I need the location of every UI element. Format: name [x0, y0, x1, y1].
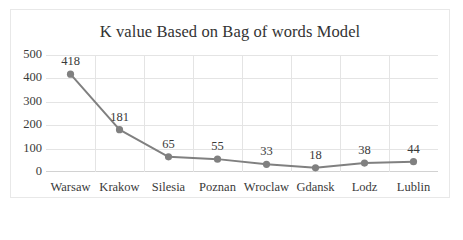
x-axis-tick-label: Poznan — [199, 180, 236, 195]
data-point-label: 181 — [110, 110, 129, 125]
y-axis-tick-label: 100 — [8, 142, 42, 155]
x-axis-tick-label: Lublin — [397, 180, 430, 195]
data-point-label: 33 — [260, 144, 273, 159]
data-point-label: 55 — [211, 139, 224, 154]
y-axis-tick-label: 200 — [8, 118, 42, 131]
data-point-label: 65 — [162, 137, 175, 152]
data-point-label: 18 — [309, 148, 322, 163]
x-axis: WarsawKrakowSilesiaPoznanWroclawGdanskLo… — [0, 180, 463, 200]
x-axis-tick-label: Warsaw — [51, 180, 91, 195]
data-point-marker — [67, 71, 74, 78]
data-point-marker — [410, 158, 417, 165]
chart-title: K value Based on Bag of words Model — [11, 22, 449, 42]
x-axis-tick-label: Gdansk — [296, 180, 334, 195]
series-line-k-value — [46, 55, 438, 172]
y-axis-tick-label: 300 — [8, 95, 42, 108]
data-point-label: 38 — [358, 143, 371, 158]
plot-area: 418181655533183844 — [46, 55, 438, 172]
data-point-marker — [312, 164, 319, 171]
x-axis-tick-label: Wroclaw — [244, 180, 289, 195]
y-axis-tick-label: 0 — [8, 165, 42, 178]
data-point-label: 418 — [61, 54, 80, 69]
data-point-marker — [263, 161, 270, 168]
y-axis-tick-label: 500 — [8, 48, 42, 61]
x-axis-tick-label: Krakow — [99, 180, 139, 195]
data-point-label: 44 — [407, 142, 420, 157]
data-point-marker — [361, 160, 368, 167]
data-point-marker — [116, 126, 123, 133]
x-axis-tick-label: Silesia — [152, 180, 185, 195]
x-axis-tick-label: Lodz — [352, 180, 378, 195]
data-point-marker — [214, 156, 221, 163]
data-point-marker — [165, 153, 172, 160]
y-axis-tick-label: 400 — [8, 71, 42, 84]
